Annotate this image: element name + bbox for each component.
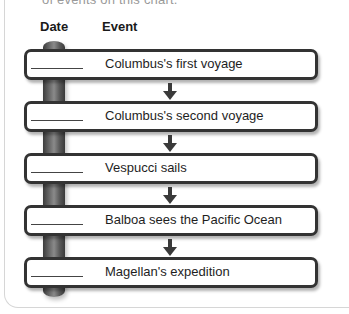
- event-box: Columbus's second voyage: [24, 101, 318, 132]
- event-box: Balboa sees the Pacific Ocean: [24, 205, 318, 236]
- date-column-header: Date: [40, 19, 68, 34]
- date-blank[interactable]: [31, 172, 83, 173]
- event-box: Vespucci sails: [24, 153, 318, 184]
- event-label: Magellan's expedition: [105, 264, 230, 279]
- event-box: Magellan's expedition: [24, 257, 318, 288]
- date-blank[interactable]: [31, 68, 83, 69]
- down-arrow-icon: [163, 187, 177, 205]
- event-label: Vespucci sails: [105, 160, 187, 175]
- date-blank[interactable]: [31, 276, 83, 277]
- event-box: Columbus's first voyage: [24, 49, 318, 80]
- down-arrow-icon: [163, 83, 177, 101]
- date-blank[interactable]: [31, 224, 83, 225]
- event-label: Columbus's first voyage: [105, 56, 243, 71]
- event-label: Balboa sees the Pacific Ocean: [105, 212, 282, 227]
- date-blank[interactable]: [31, 120, 83, 121]
- event-label: Columbus's second voyage: [105, 108, 264, 123]
- down-arrow-icon: [163, 239, 177, 257]
- down-arrow-icon: [163, 135, 177, 153]
- instruction-text: of events on this chart.: [42, 0, 178, 7]
- event-column-header: Event: [102, 19, 137, 34]
